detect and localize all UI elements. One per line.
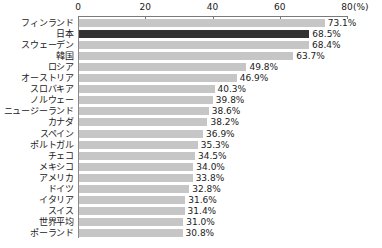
bar-15 (79, 185, 189, 193)
bar-14 (79, 174, 193, 182)
bar-12 (79, 152, 195, 160)
x-tick-label-20: 20 (140, 2, 151, 12)
bar-4 (79, 63, 246, 71)
bar-18 (79, 218, 183, 226)
bar-8 (79, 107, 209, 115)
bar-10 (79, 130, 203, 138)
category-label-19: ポーランド (0, 227, 74, 239)
bar-0 (79, 19, 325, 27)
bar-5 (79, 74, 237, 82)
chart-row: ポーランド30.8% (0, 227, 382, 239)
x-tick-label-60: 60 (274, 2, 285, 12)
bar-chart: 020406080(%) フィンランド73.1%日本68.5%スウェーデン68.… (0, 0, 382, 248)
bar-19 (79, 229, 183, 237)
x-tick-label-40: 40 (207, 2, 218, 12)
bar-9 (79, 118, 207, 126)
bar-6 (79, 85, 215, 93)
bar-7 (79, 96, 213, 104)
x-tick-label-80: 80 (341, 2, 352, 12)
bar-1 (79, 30, 309, 38)
bar-16 (79, 196, 185, 204)
bar-17 (79, 207, 185, 215)
x-axis-unit-label: (%) (353, 2, 369, 12)
bar-13 (79, 163, 193, 171)
bar-11 (79, 141, 198, 149)
bar-2 (79, 41, 309, 49)
x-tick-label-0: 0 (75, 2, 81, 12)
bar-3 (79, 52, 293, 60)
value-label-19: 30.8% (186, 227, 215, 239)
